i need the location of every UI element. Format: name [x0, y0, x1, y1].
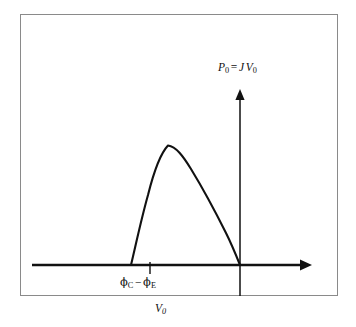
- tick-label-subscript-e: E: [151, 281, 156, 290]
- x-axis-tick-label: ϕC−ϕE: [120, 277, 156, 291]
- x-axis-label-v-subscript: 0: [162, 307, 166, 316]
- y-axis-label-v-subscript: 0: [253, 66, 257, 75]
- figure-frame: [21, 15, 338, 296]
- plot-canvas: [0, 0, 356, 327]
- x-axis-label-v: V: [155, 302, 162, 314]
- x-axis-label: V0: [155, 303, 166, 317]
- y-axis-label-v: V: [244, 61, 253, 73]
- tick-label-phi-c: ϕ: [120, 275, 128, 289]
- tick-label-minus: −: [133, 276, 143, 288]
- figure-container: P0=JV0 ϕC−ϕE V0: [0, 0, 356, 327]
- tick-label-phi-e: ϕ: [143, 275, 151, 289]
- y-axis-label: P0=JV0: [218, 62, 257, 76]
- y-axis-label-equals: =: [229, 61, 239, 73]
- y-axis-label-p: P: [218, 61, 225, 73]
